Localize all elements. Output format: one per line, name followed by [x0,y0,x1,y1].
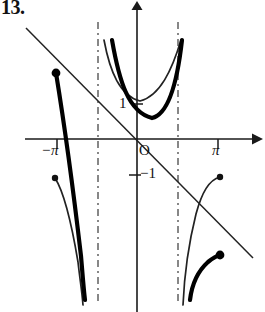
origin-label: O [139,143,150,158]
problem-number-label: 13. [1,0,25,17]
arrow-right-icon [252,134,263,145]
thick-left-endpoint-dot [52,69,61,78]
thick-left-descending-branch [56,73,85,300]
thick-right-ascending-branch [190,255,220,300]
thin-right-endpoint-dot [217,174,223,180]
figure-canvas: 13. −π π 1 −1 O [0,0,265,312]
thick-right-endpoint-dot [216,251,225,260]
thin-right-ascending-branch [183,177,220,305]
thin-left-endpoint-dot [52,175,58,181]
x-tick-label-neg-pi: −π [41,143,59,158]
thick-curve-group [56,40,220,300]
arrow-up-icon [132,1,143,10]
y-tick-label-neg-one: −1 [140,166,156,181]
graph-svg [0,0,265,312]
y-tick-label-one: 1 [119,96,127,111]
x-tick-label-pi: π [212,143,220,158]
